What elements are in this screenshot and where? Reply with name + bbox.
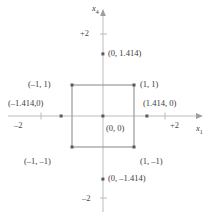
y-axis-label-subscript: 4	[96, 9, 99, 15]
x-axis-label: x1	[196, 124, 203, 135]
ccd-scatter-figure: x4 x1 +2 –2 –2 +2 (0, 1.414) (–1, 1) (1,…	[0, 0, 214, 223]
point-0-1414	[101, 52, 104, 55]
x-axis-label-subscript: 1	[200, 129, 203, 135]
point-1-1	[133, 84, 136, 87]
point-0-neg1414	[101, 178, 104, 181]
plot-canvas	[0, 0, 214, 223]
tick-label-x-neg2: –2	[14, 121, 23, 130]
point-0-0	[101, 115, 104, 118]
point-label-neg1-1: (–1, 1)	[28, 80, 51, 89]
point-label-neg1414-0: (–1.414,0)	[8, 99, 43, 108]
y-axis-arrow	[100, 9, 106, 16]
point-neg1-neg1	[71, 146, 74, 149]
point-neg1-1	[71, 84, 74, 87]
tick-label-y-neg2: –2	[82, 194, 91, 203]
y-axis-label: x4	[92, 4, 99, 15]
tick-label-y-pos2: +2	[80, 29, 89, 38]
point-1-neg1	[133, 146, 136, 149]
point-label-neg1-neg1: (–1, –1)	[24, 157, 51, 166]
point-label-0-neg1414: (0, –1.414)	[108, 174, 146, 183]
x-axis-arrow	[196, 113, 203, 119]
point-neg1414-0	[60, 115, 63, 118]
point-label-1-neg1: (1, –1)	[140, 157, 163, 166]
point-label-0-0: (0, 0)	[106, 124, 124, 133]
point-label-1414-0: (1.414, 0)	[143, 99, 176, 108]
tick-label-x-pos2: +2	[170, 121, 179, 130]
point-1414-0	[145, 115, 148, 118]
point-label-0-1414: (0, 1.414)	[108, 49, 141, 58]
point-label-1-1: (1, 1)	[140, 80, 158, 89]
